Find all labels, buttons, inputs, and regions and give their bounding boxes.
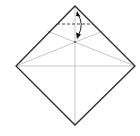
fold-arrow-curve (77, 13, 81, 36)
paper-outline (16, 6, 135, 125)
fold-arrow-head (76, 33, 81, 40)
target-point (74, 41, 76, 43)
fold-arrow (76, 11, 81, 39)
fold-arrow-tail-head (76, 11, 81, 17)
origami-diagram (0, 0, 140, 136)
